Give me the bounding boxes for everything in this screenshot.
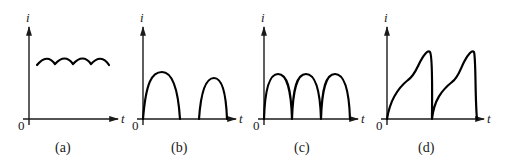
y-axis-label: i [261,10,265,25]
ripple-waveform [37,59,109,66]
y-axis-label: i [140,10,144,25]
panel-caption: (b) [171,140,188,156]
panel-caption: (d) [418,140,435,156]
panel-b: i t 0 (b) [132,10,243,156]
panel-caption: (a) [55,140,71,156]
x-axis-label: t [121,111,125,126]
y-axis-label: i [26,10,30,25]
x-axis-label: t [487,111,491,126]
figure-canvas: i t 0 (a) i t 0 (b) i t 0 (c) i t 0 (d) [0,0,511,165]
half-sine-pulse-2 [199,78,227,119]
origin-label: 0 [132,118,139,133]
x-axis-label: t [239,111,243,126]
origin-label: 0 [376,118,383,133]
half-sine-pulse-1 [143,72,180,119]
origin-label: 0 [18,118,25,133]
panel-d: i t 0 (d) [376,10,491,156]
full-wave-rectified [264,74,350,119]
sawtooth-pulse-waveform [387,51,477,119]
panel-caption: (c) [294,140,310,156]
x-axis-label: t [361,111,365,126]
panel-c: i t 0 (c) [253,10,365,156]
origin-label: 0 [253,118,260,133]
y-axis-label: i [384,10,388,25]
panel-a: i t 0 (a) [18,10,125,156]
